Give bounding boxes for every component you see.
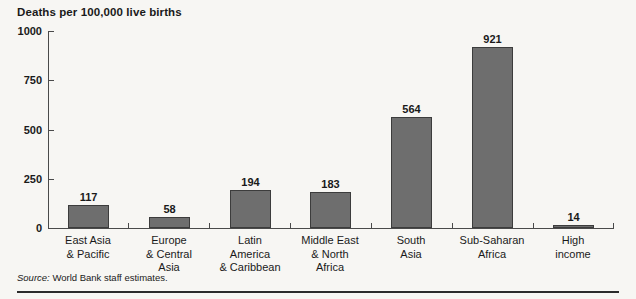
category-label-line: & Pacific bbox=[65, 248, 111, 262]
bar-value-label: 183 bbox=[321, 179, 339, 190]
bar-europe-central-asia[interactable]: 58 bbox=[149, 217, 190, 228]
category-label-line: Africa bbox=[301, 261, 358, 275]
category-label-line: Asia bbox=[397, 248, 426, 262]
category-label-line: High bbox=[555, 234, 590, 248]
bar-sub-saharan-africa[interactable]: 921 bbox=[472, 47, 513, 228]
category-label-line: Africa bbox=[460, 248, 525, 262]
bar-value-label: 58 bbox=[163, 204, 175, 215]
category-label-latin-america-caribbean: Latin America & Caribbean bbox=[219, 234, 280, 275]
category-label-line: Middle East bbox=[301, 234, 358, 248]
chart-axis-title: Deaths per 100,000 live births bbox=[17, 6, 182, 18]
bar-middle-east-north-africa[interactable]: 183 bbox=[310, 192, 351, 228]
category-label-south-asia: South Asia bbox=[397, 234, 426, 261]
x-tick-3 bbox=[290, 223, 291, 228]
category-label-line: Sub-Saharan bbox=[460, 234, 525, 248]
bar-value-label: 14 bbox=[567, 212, 579, 223]
category-label-high-income: High income bbox=[555, 234, 590, 261]
bar-south-asia[interactable]: 564 bbox=[391, 117, 432, 228]
x-tick-1 bbox=[128, 223, 129, 228]
y-tick-label: 250 bbox=[24, 173, 42, 184]
x-tick-5 bbox=[452, 223, 453, 228]
category-label-line: & Central bbox=[146, 248, 192, 262]
plot-area: 1000 750 500 250 0 117 58 bbox=[48, 31, 614, 228]
bar-value-label: 921 bbox=[483, 34, 501, 45]
category-label-europe-central-asia: Europe & Central Asia bbox=[146, 234, 192, 275]
bar-latin-america-caribbean[interactable]: 194 bbox=[230, 190, 271, 228]
bottom-rule-divider bbox=[17, 291, 619, 293]
y-tick-mark bbox=[49, 179, 54, 180]
x-tick-6 bbox=[533, 223, 534, 228]
x-tick-7 bbox=[613, 223, 614, 228]
maternal-mortality-bar-chart: Deaths per 100,000 live births 1000 750 … bbox=[0, 0, 636, 299]
bar-value-label: 194 bbox=[241, 177, 259, 188]
category-label-line: Europe bbox=[146, 234, 192, 248]
y-tick-mark bbox=[49, 80, 54, 81]
y-tick-mark bbox=[49, 130, 54, 131]
y-tick-label: 750 bbox=[24, 75, 42, 86]
bar-east-asia-pacific[interactable]: 117 bbox=[68, 205, 109, 228]
y-tick-mark bbox=[49, 31, 54, 32]
category-label-sub-saharan-africa: Sub-Saharan Africa bbox=[460, 234, 525, 261]
category-label-line: & Caribbean bbox=[219, 261, 280, 275]
category-label-line: America bbox=[219, 248, 280, 262]
source-label: Source: bbox=[17, 272, 50, 283]
bar-value-label: 117 bbox=[80, 192, 98, 203]
x-tick-4 bbox=[371, 223, 372, 228]
bar-high-income[interactable]: 14 bbox=[553, 225, 594, 229]
category-label-line: & North bbox=[301, 248, 358, 262]
y-tick-label: 500 bbox=[24, 124, 42, 135]
category-label-east-asia-pacific: East Asia & Pacific bbox=[65, 234, 111, 261]
source-note: Source: World Bank staff estimates. bbox=[17, 272, 168, 283]
y-tick-mark bbox=[49, 228, 54, 229]
category-label-line: South bbox=[397, 234, 426, 248]
x-axis-line bbox=[48, 228, 614, 229]
source-text: World Bank staff estimates. bbox=[52, 272, 167, 283]
category-label-line: income bbox=[555, 248, 590, 262]
category-label-middle-east-north-africa: Middle East & North Africa bbox=[301, 234, 358, 275]
category-label-line: East Asia bbox=[65, 234, 111, 248]
x-tick-2 bbox=[209, 223, 210, 228]
bar-value-label: 564 bbox=[402, 104, 420, 115]
y-tick-label: 0 bbox=[36, 223, 42, 234]
y-tick-label: 1000 bbox=[18, 26, 42, 37]
category-label-line: Latin bbox=[219, 234, 280, 248]
